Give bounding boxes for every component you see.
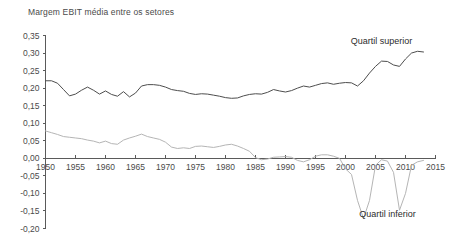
series-annotation-quartil-inferior: Quartil inferior xyxy=(359,209,416,219)
series-annotation-quartil-superior: Quartil superior xyxy=(351,36,413,46)
y-tick-label: 0,10 xyxy=(23,118,40,128)
y-tick-label: -0,05 xyxy=(20,171,40,181)
y-tick-label: -0,15 xyxy=(20,206,40,216)
y-tick-label: -0,10 xyxy=(20,188,40,198)
series-lines xyxy=(46,51,424,218)
y-tick-label: 0,15 xyxy=(23,101,40,111)
chart-container: Margem EBIT média entre os setores 0,350… xyxy=(0,0,460,251)
x-tick-label: 1990 xyxy=(276,162,295,172)
series-line-quartil-inferior xyxy=(46,131,424,219)
x-tick-label: 1975 xyxy=(186,162,205,172)
y-tick-label: 0,25 xyxy=(23,66,40,76)
x-tick-label: 1980 xyxy=(216,162,235,172)
x-tick-label: 2000 xyxy=(336,162,355,172)
x-tick-label: 2010 xyxy=(396,162,415,172)
x-tick-label: 1960 xyxy=(96,162,115,172)
x-tick-label: 1985 xyxy=(246,162,265,172)
chart-plot-area: 0,350,300,250,200,150,100,050,00-0,05-0,… xyxy=(0,0,460,251)
y-tick-label: 0,35 xyxy=(23,31,40,41)
y-tick-label: 0,30 xyxy=(23,48,40,58)
x-tick-label: 2015 xyxy=(426,162,445,172)
x-axis: 1950195519601965197019751980198519901995… xyxy=(36,155,445,172)
y-tick-label: -0,20 xyxy=(20,224,40,234)
y-tick-label: 0,20 xyxy=(23,83,40,93)
x-tick-label: 1950 xyxy=(36,162,55,172)
y-axis: 0,350,300,250,200,150,100,050,00-0,05-0,… xyxy=(20,31,45,234)
x-tick-label: 1955 xyxy=(66,162,85,172)
x-tick-label: 1965 xyxy=(126,162,145,172)
x-tick-label: 1995 xyxy=(306,162,325,172)
series-line-quartil-superior xyxy=(46,51,424,98)
x-tick-label: 1970 xyxy=(156,162,175,172)
y-tick-label: 0,05 xyxy=(23,136,40,146)
